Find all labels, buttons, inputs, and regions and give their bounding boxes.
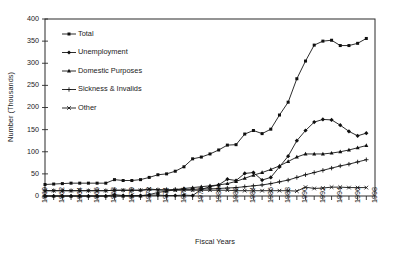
legend-item-domestic-purposes[interactable]: Domestic Purposes	[62, 66, 142, 75]
chart-container: 050100150200250300350400 196019621964196…	[0, 0, 395, 253]
x-tick-label: 1984	[248, 187, 257, 203]
marker-square	[191, 157, 194, 160]
y-tick-label: 100	[27, 147, 39, 156]
legend-item-unemployment[interactable]: Unemployment	[62, 47, 128, 56]
legend-item-label: Other	[78, 103, 97, 112]
marker-square	[313, 44, 316, 47]
marker-diamond	[329, 118, 333, 122]
marker-plus	[303, 173, 307, 177]
marker-plus	[67, 87, 71, 91]
marker-plus	[286, 178, 290, 182]
marker-square	[122, 179, 125, 182]
marker-square	[347, 44, 350, 47]
y-tick-label: 0	[35, 191, 39, 200]
marker-square	[156, 173, 159, 176]
marker-plus	[321, 168, 325, 172]
x-tick-label: 1998	[370, 187, 379, 203]
marker-square	[78, 182, 81, 185]
marker-square	[278, 114, 281, 117]
marker-square	[130, 179, 133, 182]
marker-square	[226, 144, 229, 147]
y-axis-tick-labels: 050100150200250300350400	[27, 14, 39, 200]
y-tick-label: 300	[27, 58, 39, 67]
marker-square	[104, 182, 107, 185]
marker-square	[365, 37, 368, 40]
legend-item-total[interactable]: Total	[62, 29, 94, 38]
marker-square	[182, 165, 185, 168]
x-tick-label: 1990	[300, 187, 309, 203]
marker-square	[295, 77, 298, 80]
marker-square	[209, 152, 212, 155]
marker-square	[304, 60, 307, 63]
x-tick-label: 1986	[266, 187, 275, 203]
marker-square	[269, 128, 272, 131]
marker-square	[235, 143, 238, 146]
marker-square	[330, 39, 333, 42]
marker-plus	[260, 183, 264, 187]
marker-square	[68, 33, 71, 36]
marker-square	[70, 182, 73, 185]
y-axis-title: Number (Thousands)	[6, 72, 15, 142]
marker-square	[200, 156, 203, 159]
legend-item-label: Domestic Purposes	[78, 66, 142, 75]
marker-square	[287, 101, 290, 104]
marker-square	[174, 170, 177, 173]
marker-diamond	[364, 131, 368, 135]
marker-square	[339, 44, 342, 47]
marker-square	[243, 133, 246, 136]
marker-square	[148, 176, 151, 179]
marker-square	[44, 183, 47, 186]
x-tick-label: 1996	[353, 187, 362, 203]
marker-square	[321, 40, 324, 43]
marker-diamond	[67, 50, 71, 54]
marker-plus	[243, 185, 247, 189]
marker-square	[139, 178, 142, 181]
marker-plus	[364, 158, 368, 162]
x-axis-title: Fiscal Years	[195, 237, 235, 246]
marker-square	[217, 148, 220, 151]
x-tick-label: 1982	[231, 187, 240, 203]
y-tick-label: 250	[27, 80, 39, 89]
x-tick-label: 1992	[318, 187, 327, 203]
marker-diamond	[356, 134, 360, 138]
marker-diamond	[173, 193, 177, 197]
x-tick-label: 1994	[335, 187, 344, 203]
series-path	[45, 119, 366, 196]
legend-item-label: Total	[78, 29, 94, 38]
y-tick-label: 350	[27, 36, 39, 45]
marker-square	[96, 182, 99, 185]
marker-plus	[269, 181, 273, 185]
legend-item-label: Unemployment	[78, 47, 128, 56]
marker-plus	[329, 166, 333, 170]
marker-square	[61, 182, 64, 185]
y-tick-label: 400	[27, 14, 39, 23]
marker-plus	[338, 164, 342, 168]
marker-plus	[355, 160, 359, 164]
marker-square	[113, 178, 116, 181]
marker-square	[356, 42, 359, 45]
marker-plus	[225, 186, 229, 190]
marker-plus	[295, 175, 299, 179]
y-tick-label: 200	[27, 102, 39, 111]
marker-diamond	[321, 117, 325, 121]
marker-plus	[277, 180, 281, 184]
x-tick-label: 1988	[283, 187, 292, 203]
series-layer	[43, 37, 369, 198]
line-chart: 050100150200250300350400 196019621964196…	[0, 0, 395, 253]
marker-square	[87, 182, 90, 185]
y-tick-label: 150	[27, 125, 39, 134]
legend-item-label: Sickness & Invalids	[78, 84, 142, 93]
y-tick-label: 50	[31, 169, 39, 178]
marker-square	[261, 132, 264, 135]
legend-item-other[interactable]: Other	[62, 103, 97, 112]
marker-square	[52, 183, 55, 186]
marker-plus	[347, 162, 351, 166]
marker-triangle	[364, 143, 368, 147]
marker-square	[252, 129, 255, 132]
chart-legend: TotalUnemploymentDomestic PurposesSickne…	[62, 29, 142, 112]
marker-plus	[312, 170, 316, 174]
legend-item-sickness-invalids[interactable]: Sickness & Invalids	[62, 84, 142, 93]
marker-square	[165, 172, 168, 175]
